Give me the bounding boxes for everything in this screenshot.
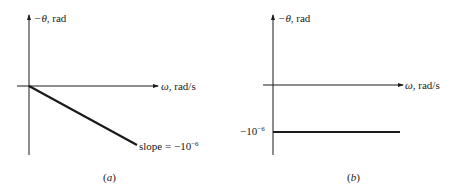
panel-b-y-unit: , rad: [291, 12, 311, 24]
panel-a-x-symbol: ω: [161, 80, 169, 92]
panel-a-y-symbol: −θ: [34, 12, 47, 24]
panel-a-y-unit: , rad: [47, 12, 67, 24]
panel-a-y-axis-label: −θ, rad: [34, 13, 66, 24]
panel-b-x-unit: , rad/s: [413, 79, 440, 91]
panel-a-sloped-line: [29, 86, 137, 145]
panel-b: [263, 15, 403, 155]
panel-b-x-axis-label: ω, rad/s: [405, 80, 440, 91]
panel-a-caption: (a): [103, 172, 116, 183]
panel-b-level-exponent: −6: [257, 125, 264, 133]
panel-a-x-unit: , rad/s: [169, 80, 196, 92]
panel-b-caption: (b): [347, 172, 360, 183]
panel-b-x-symbol: ω: [405, 79, 413, 91]
panel-a: [17, 15, 158, 155]
panel-b-level-text: −10: [240, 125, 257, 137]
panel-b-caption-letter: b: [351, 171, 357, 183]
panel-a-caption-letter: a: [107, 171, 113, 183]
panel-a-slope-annotation: slope = −10−6: [139, 141, 199, 152]
panel-a-slope-exponent: −6: [191, 140, 198, 148]
panel-a-slope-text: slope = −10: [139, 140, 191, 152]
diagram-canvas: [0, 0, 451, 191]
panel-b-y-symbol: −θ: [278, 12, 291, 24]
panel-b-y-axis-label: −θ, rad: [278, 13, 310, 24]
panel-b-level-annotation: −10−6: [240, 126, 265, 137]
panel-a-x-axis-label: ω, rad/s: [161, 81, 196, 92]
